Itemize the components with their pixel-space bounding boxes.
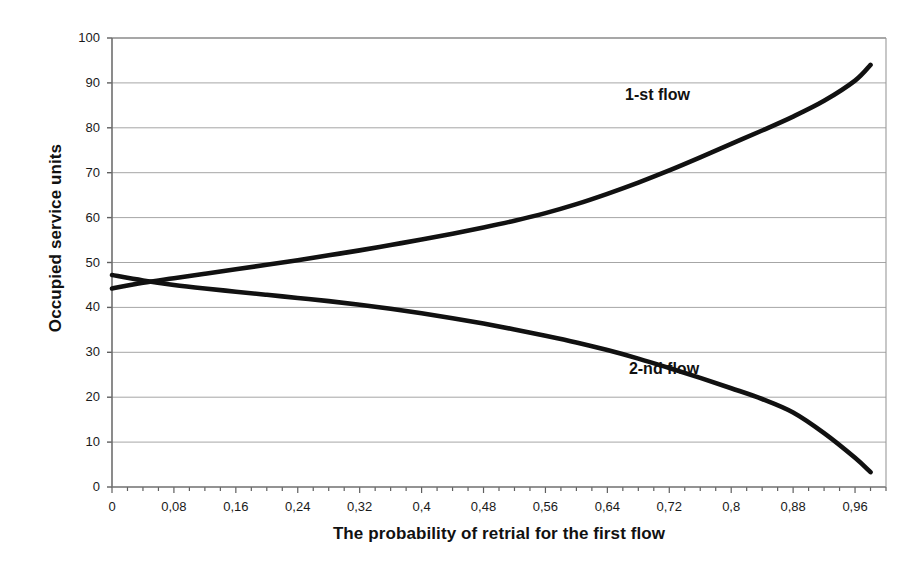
- x-tick-label: 0: [82, 500, 142, 513]
- y-tick-label: 60: [60, 211, 100, 224]
- y-tick-label: 30: [60, 345, 100, 358]
- gridlines-group: [112, 38, 886, 442]
- x-tick-label: 0,4: [392, 500, 452, 513]
- data-series-group: [112, 65, 871, 472]
- x-tick-label: 0,16: [206, 500, 266, 513]
- chart-figure: Occupied service units The probability o…: [0, 0, 907, 564]
- x-tick-label: 0,08: [144, 500, 204, 513]
- y-tick-label: 10: [60, 435, 100, 448]
- y-tick-label: 0: [60, 480, 100, 493]
- x-tick-label: 0,32: [330, 500, 390, 513]
- y-tick-label: 90: [60, 76, 100, 89]
- y-tick-label: 100: [60, 31, 100, 44]
- x-tick-label: 0,88: [763, 500, 823, 513]
- y-tick-label: 20: [60, 390, 100, 403]
- series-line-1st-flow: [112, 65, 871, 289]
- x-tick-label: 0,48: [454, 500, 514, 513]
- tick-marks-group: [107, 38, 886, 493]
- y-tick-label: 80: [60, 121, 100, 134]
- x-tick-label: 0,72: [639, 500, 699, 513]
- y-tick-label: 40: [60, 300, 100, 313]
- y-tick-label: 70: [60, 166, 100, 179]
- plot-area: [0, 0, 907, 564]
- x-tick-label: 0,96: [825, 500, 885, 513]
- y-tick-label: 50: [60, 256, 100, 269]
- series-label-2nd-flow: 2-nd flow: [629, 360, 699, 378]
- x-tick-label: 0,64: [577, 500, 637, 513]
- x-tick-label: 0,24: [268, 500, 328, 513]
- series-line-2nd-flow: [112, 275, 871, 472]
- x-tick-label: 0,56: [515, 500, 575, 513]
- x-tick-label: 0,8: [701, 500, 761, 513]
- series-label-1st-flow: 1-st flow: [625, 86, 690, 104]
